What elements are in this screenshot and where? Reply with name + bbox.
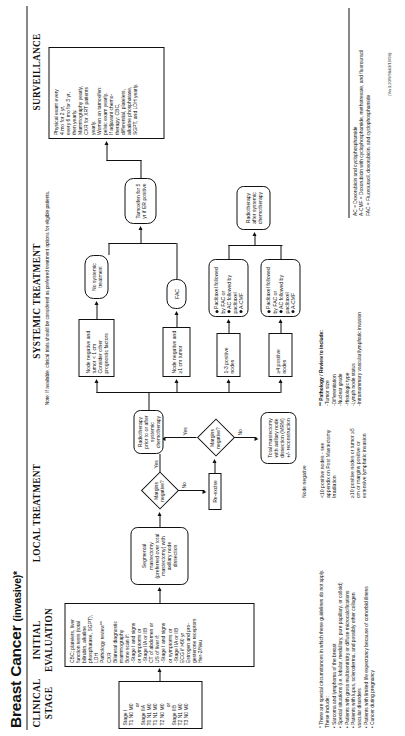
eval-line: ECG if >60 yr bbox=[178, 607, 184, 663]
surveillance-line: then yearly. bbox=[70, 51, 76, 135]
radiotherapy-prior-label: Radiotherapy prior to or after systemic … bbox=[136, 414, 161, 451]
bullet-icon bbox=[215, 311, 218, 314]
eval-line: mammography bbox=[117, 607, 123, 663]
segmental-mastectomy-label: Segmental mastectomy (preferred over tot… bbox=[140, 531, 177, 582]
connector-to-no-systemic bbox=[96, 303, 97, 319]
margins-negative-label-2: Margins negative? bbox=[196, 419, 234, 457]
arrowhead bbox=[278, 319, 282, 323]
fac-regimen-label: FAC bbox=[173, 289, 179, 299]
column-header-systemic-treatment: SYSTEMIC TREATMENT bbox=[31, 196, 43, 406]
arrowhead bbox=[157, 512, 161, 516]
abbreviations-divider bbox=[348, 8, 349, 218]
eval-line: CXR bbox=[105, 607, 111, 663]
connector-to-fac bbox=[176, 313, 177, 327]
surveillance-line: 4 mo for 2 yr, bbox=[58, 51, 64, 135]
eval-line: Her-2/Neu bbox=[196, 607, 202, 663]
bullet-icon bbox=[279, 311, 282, 314]
eval-line: Bilateral diagnostic bbox=[111, 607, 117, 663]
edge-label-no-2: No bbox=[236, 429, 242, 436]
bullet-icon bbox=[227, 311, 230, 314]
regimen-option: Paclitaxel followed by FAC or bbox=[212, 263, 224, 314]
eval-line: Bone scan if: bbox=[123, 607, 129, 663]
eval-line: or symptoms or bbox=[135, 607, 141, 663]
footnote-pathology-item: -Tumor size bbox=[324, 236, 330, 406]
ge10-nodes-note: ≥10 positive nodes or tumor ≥5 cm or mar… bbox=[348, 420, 367, 498]
screenshot-frame: Breast Cancer (invasive)* CLINICALSTAGE … bbox=[0, 0, 405, 736]
arrowhead bbox=[157, 587, 161, 591]
node-negative-note: Node negative bbox=[300, 428, 306, 498]
column-header-local-treatment: LOCAL TREATMENT bbox=[31, 438, 43, 588]
footnote-special-item: • Cancer during pregnancy bbox=[369, 498, 375, 728]
re-excise-box: Re-excise bbox=[208, 473, 221, 510]
footnote-special-item: • Patients with lupus, scleroderma, and … bbox=[350, 498, 356, 728]
eval-line: -Stage I and signs bbox=[129, 607, 135, 663]
stage-line: T2 N0 M0 bbox=[158, 685, 164, 726]
systemic-spine-upper bbox=[96, 392, 149, 393]
footnote-special-item: • Patients with limited life expectancy … bbox=[363, 498, 369, 728]
connector-to-surveillance bbox=[106, 143, 107, 161]
regimen-nodes-1-3-box: Paclitaxel followed by FAC or AC followe… bbox=[208, 259, 248, 317]
eval-line: US of liver if: bbox=[153, 607, 159, 663]
footnote-special-title: * There are special circumstances in whi… bbox=[318, 498, 324, 728]
footnote-special-item: • Special situations (i.e. lobular, medu… bbox=[337, 498, 343, 728]
eval-line: Pathology review** bbox=[98, 607, 104, 663]
stage-line: T2 N1 M0 bbox=[176, 685, 182, 726]
footnote-pathology-title: ** Pathology / Review to include: bbox=[318, 236, 324, 406]
arrowhead bbox=[226, 319, 230, 323]
node-negative-large-tumor-label: Node negative and ≥1 cm tumor bbox=[170, 331, 182, 374]
footnote-pathology-item: -Lymph node status bbox=[350, 236, 356, 406]
connector-nosys-to-tam bbox=[108, 243, 109, 255]
stage-line: T1 N0 M0 bbox=[127, 685, 133, 726]
bullet-icon bbox=[291, 311, 294, 314]
total-mastectomy-label: Total mastectomy with axillary node diss… bbox=[266, 416, 291, 461]
footnote-special-item: These include: bbox=[324, 498, 330, 728]
connector-rt-to-systemic bbox=[148, 392, 149, 410]
arrowhead bbox=[94, 301, 98, 305]
eval-line: bilirubin, alkaline bbox=[80, 607, 86, 663]
bullet-icon bbox=[239, 311, 242, 314]
connector-margins2-yes bbox=[164, 437, 196, 438]
surveillance-line: If adjuvant chemo- bbox=[107, 51, 113, 135]
arrowhead bbox=[94, 379, 98, 383]
bullet-icon bbox=[267, 311, 270, 314]
eval-line: -Stage IIA or IIB bbox=[172, 607, 178, 663]
eval-line: LDH bbox=[92, 607, 98, 663]
nodes-1-3-box: 1-3 positive nodes bbox=[216, 333, 240, 377]
page-title-qualifier: (invasive)* bbox=[10, 571, 22, 621]
radiotherapy-after-box: Radiotherapy after systemic chemotherapy bbox=[236, 186, 270, 230]
no-systemic-treatment-box: No systemic treatment bbox=[84, 255, 108, 299]
connector-tam-to-surveillance bbox=[140, 160, 141, 178]
radiotherapy-after-label: Radiotherapy after systemic chemotherapy bbox=[244, 190, 263, 227]
segmental-mastectomy-box: Segmental mastectomy (preferred over tot… bbox=[130, 527, 188, 585]
footnote-special-item: • Patients with gross multicentricity or… bbox=[344, 498, 350, 728]
radiotherapy-prior-box: Radiotherapy prior to or after systemic … bbox=[133, 410, 163, 454]
arrowhead bbox=[226, 379, 230, 383]
footnote-pathology: ** Pathology / Review to include: -Tumor… bbox=[318, 236, 363, 406]
regimen-option: A-CMF bbox=[237, 263, 243, 314]
connector-eval-to-local bbox=[159, 589, 160, 603]
arrowhead bbox=[202, 490, 206, 494]
arrowhead bbox=[252, 232, 256, 236]
edge-label-yes-1: Yes bbox=[152, 460, 158, 469]
surveillance-line: therapy: CBC, bbox=[113, 51, 119, 135]
column-header-initial-evaluation: INITIALEVALUATION bbox=[31, 606, 54, 674]
eval-line: gesterone receptors bbox=[190, 607, 196, 663]
nodes-4plus-label: ≥4 positive nodes bbox=[274, 337, 286, 374]
tamoxifen-box: Tamoxifen for 5 yr if ER positive bbox=[124, 178, 156, 224]
nodes-1-3-label: 1-3 positive nodes bbox=[222, 337, 234, 374]
initial-evaluation-box: CBC; platelets, liver function tests (to… bbox=[64, 603, 254, 667]
regimen-option: AC followed by paclitaxel bbox=[225, 263, 237, 314]
regimen-option: A-CMF bbox=[289, 263, 295, 314]
arrowhead bbox=[174, 311, 178, 315]
abbreviation-line: A-CMF = Doxorubicin with cyclophosphamid… bbox=[358, 10, 364, 216]
eval-line: phosphatase, SGPT), bbox=[86, 607, 92, 663]
footnote-pathology-item: -Nuclear grade bbox=[337, 236, 343, 406]
connector-margins2-no bbox=[234, 437, 256, 438]
connector-fac-to-tam bbox=[176, 243, 177, 279]
abbreviations-legend: AC = Doxorubicin and cyclophosphamide A-… bbox=[352, 10, 371, 216]
surveillance-line: CXR for XRT patients bbox=[82, 51, 88, 135]
title-divider bbox=[26, 6, 27, 730]
footnote-pathology-item: -Intramammary vascular/lymphatic invasio… bbox=[356, 236, 362, 406]
total-mastectomy-box: Total mastectomy with axillary node diss… bbox=[260, 412, 296, 464]
eval-line: or symptoms or bbox=[166, 607, 172, 663]
